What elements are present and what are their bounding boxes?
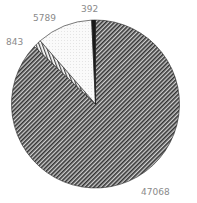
pie-slices <box>12 20 180 188</box>
slice-label-5789: 5789 <box>33 13 56 23</box>
slice-label-843: 843 <box>6 37 23 47</box>
slice-label-47068: 47068 <box>141 187 170 197</box>
slice-label-392: 392 <box>81 4 98 14</box>
pie-chart: 47068 843 5789 392 <box>0 0 197 203</box>
